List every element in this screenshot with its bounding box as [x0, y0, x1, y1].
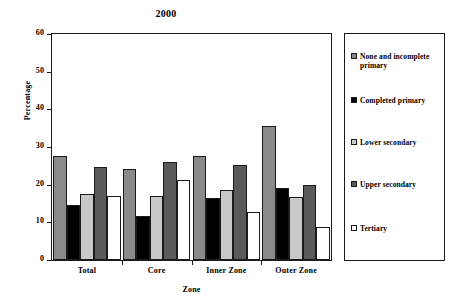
y-tick-mark [47, 109, 51, 110]
chart-container: 2000 Percentage 0102030405060 TotalCoreI… [0, 0, 451, 302]
y-tick-mark [47, 222, 51, 223]
y-tick-label: 10 [36, 216, 44, 225]
legend-swatch-icon [351, 97, 357, 103]
bar [177, 180, 191, 260]
bar [220, 190, 234, 260]
legend-item: Upper secondary [351, 180, 445, 189]
bar [80, 194, 94, 260]
bar-series-layer [52, 34, 331, 260]
bar [206, 198, 220, 260]
bar [276, 188, 290, 260]
legend-swatch-icon [351, 181, 357, 187]
bar [233, 165, 247, 260]
legend-item: Completed primary [351, 96, 445, 105]
y-tick-label: 0 [40, 254, 44, 263]
legend-swatch-icon [351, 139, 357, 145]
bar-group [52, 34, 122, 260]
bar [107, 196, 121, 260]
legend-label: Lower secondary [360, 138, 417, 147]
y-tick-mark [47, 147, 51, 148]
bar-group [122, 34, 192, 260]
bar-group [261, 34, 331, 260]
y-tick-mark [47, 260, 51, 261]
bar [289, 197, 303, 260]
category-label: Core [122, 266, 192, 275]
category-label: Total [52, 266, 122, 275]
x-tick-mark [122, 261, 123, 265]
y-tick-label: 20 [36, 179, 44, 188]
legend-label: Upper secondary [360, 180, 416, 189]
bar [150, 196, 164, 260]
legend-label: None and incomplete primary [360, 52, 445, 70]
x-tick-mark [192, 261, 193, 265]
x-axis-label: Zone [51, 285, 332, 294]
bar [123, 169, 137, 260]
y-tick-label: 30 [36, 141, 44, 150]
category-label: Inner Zone [192, 266, 262, 275]
bar [303, 185, 317, 260]
legend-item: Tertiary [351, 224, 445, 233]
legend: None and incomplete primaryCompleted pri… [344, 33, 445, 261]
bar [163, 162, 177, 260]
bar [247, 212, 261, 260]
legend-swatch-icon [351, 225, 357, 231]
legend-item: Lower secondary [351, 138, 445, 147]
y-tick-mark [47, 34, 51, 35]
y-tick-mark [47, 185, 51, 186]
legend-label: Tertiary [360, 224, 387, 233]
bar [316, 227, 330, 260]
legend-item: None and incomplete primary [351, 52, 445, 70]
category-label: Outer Zone [261, 266, 331, 275]
y-tick-label: 60 [36, 28, 44, 37]
y-tick-mark [47, 72, 51, 73]
y-tick-label: 40 [36, 103, 44, 112]
y-axis-label: Percentage [23, 61, 32, 141]
legend-swatch-icon [351, 53, 357, 59]
bar-group [192, 34, 262, 260]
bar [193, 156, 207, 260]
y-tick-label: 50 [36, 66, 44, 75]
chart-title: 2000 [0, 8, 332, 19]
bar [262, 126, 276, 260]
bar [136, 216, 150, 260]
x-tick-mark [261, 261, 262, 265]
bar [53, 156, 67, 260]
legend-label: Completed primary [360, 96, 425, 105]
bar [94, 167, 108, 260]
bar [67, 205, 81, 260]
